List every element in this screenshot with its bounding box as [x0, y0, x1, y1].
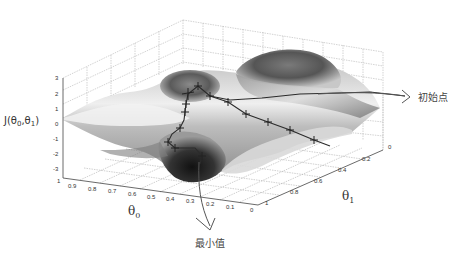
svg-text:0: 0 — [55, 121, 59, 127]
x-axis-label: θ0 — [128, 204, 140, 220]
z-axis-ticks: 3 2 1 0 -1 -2 -3 — [53, 75, 59, 172]
svg-text:0.8: 0.8 — [88, 186, 97, 192]
svg-text:0.7: 0.7 — [108, 188, 117, 194]
svg-text:-2: -2 — [53, 151, 59, 157]
svg-text:2: 2 — [55, 91, 59, 97]
svg-text:0.9: 0.9 — [68, 183, 77, 189]
svg-text:0.5: 0.5 — [147, 194, 156, 200]
svg-text:0.4: 0.4 — [338, 167, 347, 173]
svg-text:0: 0 — [388, 144, 392, 150]
z-axis-label: J(θ0,θ1) — [3, 115, 39, 128]
svg-text:-1: -1 — [53, 136, 59, 142]
svg-text:1: 1 — [55, 106, 59, 112]
start-point-label: 初始点 — [418, 91, 448, 103]
svg-text:0.2: 0.2 — [362, 156, 371, 162]
svg-text:0.8: 0.8 — [290, 189, 299, 195]
svg-text:0.3: 0.3 — [186, 198, 195, 204]
svg-text:-3: -3 — [53, 166, 59, 172]
svg-text:0: 0 — [250, 207, 254, 213]
svg-text:0.1: 0.1 — [226, 204, 235, 210]
y-axis-label: θ1 — [342, 189, 354, 205]
x-axis-ticks: 1 0.9 0.8 0.7 0.6 0.5 0.4 0.3 0.2 0.1 0 — [57, 178, 254, 213]
surface-chart: 3 2 1 0 -1 -2 -3 1 0.9 0.8 0.7 0.6 0.5 0… — [0, 0, 468, 266]
svg-text:0.6: 0.6 — [128, 191, 137, 197]
svg-text:0.2: 0.2 — [206, 201, 215, 207]
svg-text:0.6: 0.6 — [314, 178, 323, 184]
minimum-label: 最小值 — [195, 237, 225, 249]
svg-text:1: 1 — [265, 200, 269, 206]
svg-text:1: 1 — [57, 178, 61, 184]
svg-text:3: 3 — [55, 75, 59, 81]
svg-text:0.4: 0.4 — [166, 196, 175, 202]
